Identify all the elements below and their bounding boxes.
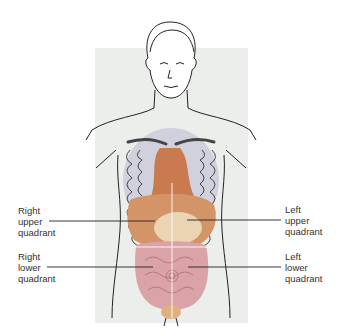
label-left-upper-quadrant: Left upper quadrant: [285, 204, 323, 237]
label-line: lower: [18, 262, 56, 273]
bladder: [161, 305, 181, 319]
label-line: Left: [285, 251, 323, 262]
label-line: quadrant: [18, 273, 56, 284]
label-line: Right: [18, 251, 56, 262]
label-left-lower-quadrant: Left lower quadrant: [285, 251, 323, 284]
label-line: Left: [285, 204, 323, 215]
label-right-upper-quadrant: Right upper quadrant: [18, 205, 56, 238]
label-line: quadrant: [285, 226, 323, 237]
label-line: Right: [18, 205, 56, 216]
label-line: upper: [285, 215, 323, 226]
label-line: quadrant: [18, 227, 56, 238]
label-line: upper: [18, 216, 56, 227]
label-line: lower: [285, 262, 323, 273]
label-right-lower-quadrant: Right lower quadrant: [18, 251, 56, 284]
label-line: quadrant: [285, 273, 323, 284]
head: [86, 22, 256, 140]
